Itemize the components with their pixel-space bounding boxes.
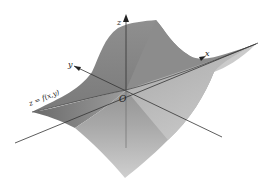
origin-label: O	[119, 94, 127, 104]
y-axis-label: y	[67, 60, 73, 69]
x-axis-label: x	[205, 49, 210, 58]
surface-diagram: z x y O z = f(x,y)	[0, 0, 266, 184]
z-axis-label: z	[116, 18, 122, 27]
y-axis-arrow-icon	[74, 66, 81, 71]
z-axis-arrow-icon	[123, 14, 129, 22]
